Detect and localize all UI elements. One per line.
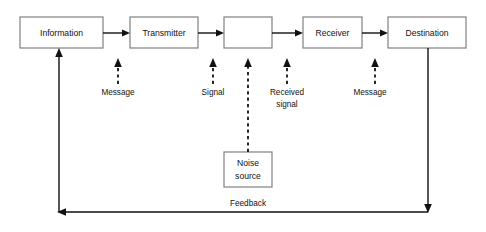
feedback-loop: Feedback: [55, 48, 432, 216]
diagram-canvas: Information Transmitter Receiver Destina…: [0, 0, 486, 232]
node-noise-source-label-line1: Noise: [237, 158, 259, 168]
arrow-receiver-to-destination: [362, 29, 388, 36]
node-destination[interactable]: Destination: [388, 17, 466, 48]
arrow-transmitter-to-channel-head: [216, 29, 224, 36]
annotation-received-signal-to-receiver: Received signal: [270, 58, 305, 109]
node-destination-label: Destination: [406, 28, 449, 38]
arrow-transmitter-to-channel: [198, 29, 224, 36]
annotation-message-to-destination-head: [371, 58, 379, 67]
annotation-message-to-destination: Message: [353, 58, 387, 97]
feedback-up-arrow-head: [55, 48, 63, 57]
node-channel-box[interactable]: [224, 17, 272, 48]
annotation-received-signal-label-line2: signal: [276, 100, 298, 109]
feedback-label: Feedback: [230, 199, 267, 208]
arrow-channel-to-receiver: [272, 29, 303, 36]
annotation-message-to-transmitter: Message: [101, 58, 135, 97]
node-transmitter[interactable]: Transmitter: [130, 17, 198, 48]
arrow-information-to-transmitter: [103, 29, 130, 36]
node-information[interactable]: Information: [20, 17, 103, 48]
node-receiver-label: Receiver: [316, 28, 350, 38]
annotation-message-to-destination-label: Message: [353, 88, 387, 97]
node-receiver[interactable]: Receiver: [303, 17, 362, 48]
node-channel[interactable]: [224, 17, 272, 48]
node-information-label: Information: [40, 28, 83, 38]
node-transmitter-label: Transmitter: [142, 28, 185, 38]
annotation-received-signal-to-receiver-head: [283, 58, 291, 67]
annotation-signal-to-channel-head: [209, 58, 217, 67]
arrow-receiver-to-destination-head: [380, 29, 388, 36]
annotation-message-to-transmitter-label: Message: [101, 88, 135, 97]
node-noise-source-label-line2: source: [235, 171, 261, 181]
arrow-information-to-transmitter-head: [122, 29, 130, 36]
node-noise-source[interactable]: Noise source: [224, 152, 272, 187]
arrow-channel-to-receiver-head: [295, 29, 303, 36]
arrow-noise-to-channel: [244, 58, 252, 152]
arrow-noise-to-channel-head: [244, 58, 252, 67]
annotation-message-to-transmitter-head: [114, 58, 122, 67]
annotation-signal-to-channel: Signal: [202, 58, 225, 97]
communication-model-diagram: Information Transmitter Receiver Destina…: [0, 0, 486, 232]
annotation-signal-to-channel-label: Signal: [202, 88, 225, 97]
annotation-received-signal-label-line1: Received: [270, 88, 305, 97]
